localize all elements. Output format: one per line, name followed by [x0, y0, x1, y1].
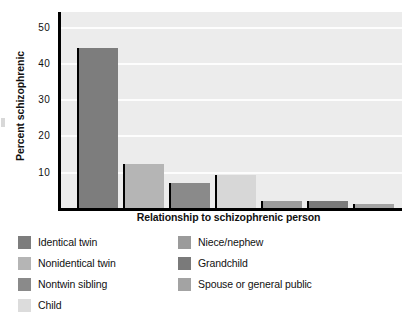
bar [353, 204, 394, 208]
legend-item: Identical twin [18, 232, 188, 252]
legend-swatch [18, 236, 31, 249]
y-tick-label: 30 [38, 94, 50, 105]
legend-swatch [18, 257, 31, 270]
legend-item-label: Child [38, 299, 61, 311]
bar [307, 201, 348, 208]
bar [169, 183, 210, 208]
legend: Identical twinNonidentical twinNontwin s… [18, 232, 398, 320]
bar [123, 164, 164, 208]
legend-swatch [178, 278, 191, 291]
bar-chart-figure: Percent schizophrenic 1020304050 Relatio… [0, 0, 407, 325]
legend-swatch [178, 236, 191, 249]
legend-item-label: Nonidentical twin [38, 257, 116, 269]
x-axis-title: Relationship to schizophrenic person [58, 211, 399, 223]
legend-item: Niece/nephew [178, 232, 398, 252]
legend-item-label: Niece/nephew [198, 236, 263, 248]
legend-swatch [18, 299, 31, 312]
legend-swatch [18, 278, 31, 291]
legend-item: Nontwin sibling [18, 274, 188, 294]
legend-item: Grandchild [178, 253, 398, 273]
legend-swatch [178, 257, 191, 270]
legend-item-label: Spouse or general public [198, 278, 312, 290]
y-tick-label: 50 [38, 21, 50, 32]
plot-area [58, 12, 402, 211]
y-tick-label: 10 [38, 166, 50, 177]
y-tick-label: 40 [38, 57, 50, 68]
bar-series [61, 12, 402, 208]
legend-item-label: Grandchild [198, 257, 248, 269]
y-axis-tick-labels: 1020304050 [0, 12, 56, 208]
legend-item: Nonidentical twin [18, 253, 188, 273]
bar [215, 175, 256, 208]
legend-item-label: Identical twin [38, 236, 97, 248]
y-tick-label: 20 [38, 130, 50, 141]
bar [261, 201, 302, 208]
plot-region: Percent schizophrenic 1020304050 Relatio… [0, 0, 407, 228]
legend-item: Child [18, 295, 188, 315]
legend-column-right: Niece/nephewGrandchildSpouse or general … [178, 232, 398, 295]
legend-item: Spouse or general public [178, 274, 398, 294]
legend-item-label: Nontwin sibling [38, 278, 107, 290]
bar [77, 48, 118, 208]
legend-column-left: Identical twinNonidentical twinNontwin s… [18, 232, 188, 316]
